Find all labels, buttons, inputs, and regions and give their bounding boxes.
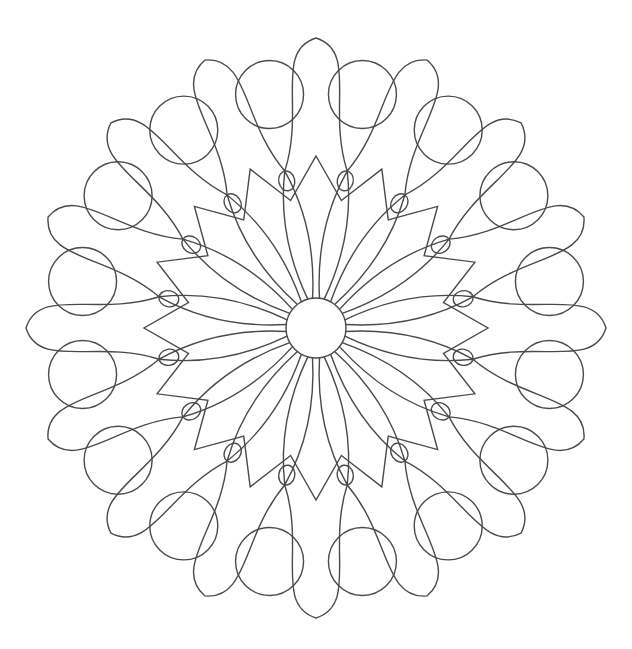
mandala-drawing [0, 0, 632, 649]
